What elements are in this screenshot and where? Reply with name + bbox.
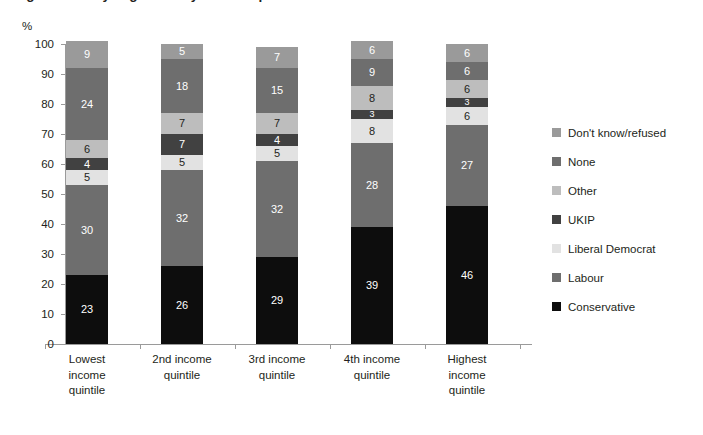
x-axis-category-label-line: quintile: [127, 368, 237, 384]
bar-segment[interactable]: 9: [351, 59, 393, 86]
bar-segment-value: 6: [464, 111, 470, 122]
bar-segment[interactable]: 3: [446, 98, 488, 107]
x-axis-category-label-line: Highest: [412, 352, 522, 368]
x-axis-line: [45, 344, 532, 345]
bar-1[interactable]: 9246453023: [66, 41, 108, 344]
bar-segment-value: 27: [461, 160, 473, 171]
bar-segment-value: 5: [84, 172, 90, 183]
legend-item-label: Labour: [568, 272, 604, 284]
bar-segment[interactable]: 27: [446, 125, 488, 206]
legend-item[interactable]: Liberal Democrat: [552, 234, 666, 263]
legend-item[interactable]: None: [552, 147, 666, 176]
x-axis-category-label-line: quintile: [317, 368, 427, 384]
x-axis-category-label: Highestincomequintile: [412, 352, 522, 399]
y-axis-tick-mark: [61, 344, 65, 345]
bar-segment[interactable]: 4: [256, 134, 298, 146]
bar-segment[interactable]: 6: [446, 107, 488, 125]
y-axis-tick-label: 10: [41, 308, 54, 320]
x-axis-category-label-line: quintile: [222, 368, 332, 384]
bar-segment[interactable]: 6: [446, 44, 488, 62]
plot-area: 9246453023518775322671574532296983828396…: [66, 44, 530, 344]
y-axis-tick-mark: [61, 194, 65, 195]
bar-segment[interactable]: 3: [351, 110, 393, 119]
x-axis-category-label: 3rd incomequintile: [222, 352, 332, 383]
y-axis-tick-mark: [61, 224, 65, 225]
bar-segment-value: 8: [369, 126, 375, 137]
bar-segment[interactable]: 9: [66, 41, 108, 68]
legend-item-label: Liberal Democrat: [568, 243, 656, 255]
legend-swatch-icon: [552, 302, 561, 311]
bar-segment[interactable]: 5: [256, 146, 298, 161]
legend-item-label: Other: [568, 185, 597, 197]
bar-segment[interactable]: 5: [66, 170, 108, 185]
bar-segment[interactable]: 5: [161, 155, 203, 170]
y-axis-tick-mark: [61, 284, 65, 285]
bar-5[interactable]: 666362746: [446, 44, 488, 344]
bar-segment[interactable]: 8: [351, 119, 393, 143]
bar-segment[interactable]: 28: [351, 143, 393, 227]
bar-segment-value: 5: [179, 157, 185, 168]
legend-item[interactable]: Labour: [552, 263, 666, 292]
bar-segment[interactable]: 6: [446, 80, 488, 98]
y-axis-tick-label: 20: [41, 278, 54, 290]
x-axis-category-label-line: quintile: [32, 383, 142, 399]
bar-segment[interactable]: 15: [256, 68, 298, 113]
chart-legend: Don't know/refusedNoneOtherUKIPLiberal D…: [552, 118, 666, 321]
bar-segment-value: 46: [461, 270, 473, 281]
bar-segment-value: 3: [464, 98, 469, 107]
y-axis-tick-mark: [61, 44, 65, 45]
bar-segment-value: 4: [84, 159, 90, 170]
bar-segment[interactable]: 32: [256, 161, 298, 257]
bar-segment[interactable]: 24: [66, 68, 108, 140]
bar-segment[interactable]: 6: [351, 41, 393, 59]
bar-segment-value: 6: [369, 45, 375, 56]
x-axis-category-label-line: 4th income: [317, 352, 427, 368]
bar-4[interactable]: 698382839: [351, 41, 393, 344]
legend-swatch-icon: [552, 157, 561, 166]
bar-segment[interactable]: 23: [66, 275, 108, 344]
legend-item-label: Conservative: [568, 301, 635, 313]
bar-segment-value: 6: [464, 84, 470, 95]
bar-segment[interactable]: 32: [161, 170, 203, 266]
bar-segment[interactable]: 18: [161, 59, 203, 113]
bar-segment-value: 6: [464, 48, 470, 59]
bar-segment[interactable]: 6: [446, 62, 488, 80]
bar-segment[interactable]: 39: [351, 227, 393, 344]
bar-segment[interactable]: 5: [161, 44, 203, 59]
bar-segment[interactable]: 26: [161, 266, 203, 344]
bar-segment[interactable]: 7: [256, 47, 298, 68]
bar-segment[interactable]: 46: [446, 206, 488, 344]
y-axis-tick-mark: [61, 134, 65, 135]
bar-segment-value: 4: [274, 135, 280, 146]
y-axis-tick-mark: [61, 314, 65, 315]
bar-segment[interactable]: 7: [256, 113, 298, 134]
bar-segment[interactable]: 8: [351, 86, 393, 110]
y-axis-tick-label: 40: [41, 218, 54, 230]
x-axis-category-label: 2nd incomequintile: [127, 352, 237, 383]
bar-segment[interactable]: 29: [256, 257, 298, 344]
y-axis-tick-label: 0: [48, 338, 54, 350]
legend-item[interactable]: UKIP: [552, 205, 666, 234]
bar-segment-value: 8: [369, 93, 375, 104]
bar-segment-value: 9: [84, 49, 90, 60]
bar-segment-value: 28: [366, 180, 378, 191]
legend-item[interactable]: Other: [552, 176, 666, 205]
legend-item[interactable]: Conservative: [552, 292, 666, 321]
bar-segment-value: 5: [274, 148, 280, 159]
bar-3[interactable]: 7157453229: [256, 47, 298, 344]
bar-segment-value: 24: [81, 99, 93, 110]
bar-segment[interactable]: 4: [66, 158, 108, 170]
bar-segment[interactable]: 7: [161, 113, 203, 134]
legend-item-label: UKIP: [568, 214, 595, 226]
bar-2[interactable]: 5187753226: [161, 44, 203, 344]
y-axis-tick-mark: [61, 74, 65, 75]
bar-segment[interactable]: 6: [66, 140, 108, 158]
legend-item[interactable]: Don't know/refused: [552, 118, 666, 147]
bar-segment[interactable]: 30: [66, 185, 108, 275]
legend-swatch-icon: [552, 273, 561, 282]
x-axis-tick-mark: [140, 344, 141, 349]
bar-segment-value: 7: [274, 118, 280, 129]
bar-segment-value: 6: [464, 66, 470, 77]
x-axis-tick-mark: [520, 344, 521, 349]
bar-segment[interactable]: 7: [161, 134, 203, 155]
